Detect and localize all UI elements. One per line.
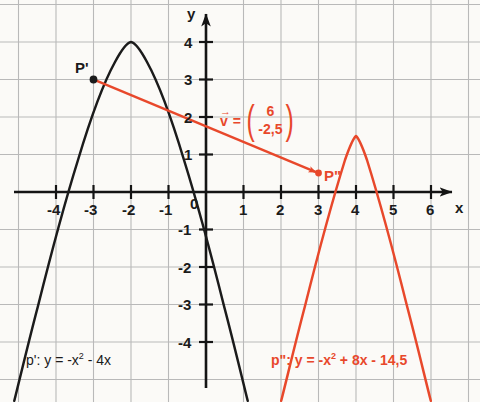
equation-label-p-double-prime: p": y = -x2 + 8x - 14,5: [271, 352, 407, 367]
y-tick-label-4: 4: [184, 35, 192, 50]
y-axis-label: y: [187, 6, 195, 21]
equation-label-p-prime: p': y = -x2 - 4x: [26, 352, 111, 367]
vector-close-paren: ): [286, 105, 294, 136]
x-tick-label-6: 6: [426, 202, 434, 217]
vector-name-wrap: → v: [220, 113, 228, 129]
y-tick-label-1: 1: [184, 147, 192, 162]
point-p-prime-marker: [90, 76, 98, 84]
x-tick-label-3: 3: [314, 202, 322, 217]
x-tick-label-1: 1: [239, 202, 247, 217]
graph-figure: y x 0 -4 -3 -2 -1 1 2 3 4 5 6 4 3 2 1 -1…: [0, 0, 480, 402]
vector-component-x: 6: [266, 103, 274, 121]
y-tick-label--4: -4: [178, 335, 191, 350]
y-tick-label--1: -1: [178, 222, 191, 237]
point-p-double-prime-marker: [315, 170, 322, 177]
vector-component-y: -2,5: [258, 121, 282, 139]
x-tick-label--1: -1: [159, 202, 172, 217]
x-tick-label-5: 5: [389, 202, 397, 217]
vector-annotation: → v = ( 6 -2,5 ): [220, 103, 297, 138]
vector-arrow-accent-icon: →: [220, 106, 231, 117]
x-tick-label-4: 4: [351, 202, 359, 217]
y-tick-label-3: 3: [184, 72, 192, 87]
equation-p-prime-rest: - 4x: [84, 352, 111, 368]
vector-open-paren: (: [247, 105, 255, 136]
x-tick-label--3: -3: [84, 202, 97, 217]
equation-p-double-prime-prefix: p": y = -x: [271, 352, 331, 368]
x-axis-label: x: [455, 200, 463, 215]
equation-p-prime-prefix: p': y = -x: [26, 352, 79, 368]
x-tick-label-2: 2: [276, 202, 284, 217]
y-tick-label--3: -3: [178, 297, 191, 312]
origin-label: 0: [190, 196, 198, 211]
y-tick-label-2: 2: [184, 110, 192, 125]
point-label-p-prime: P': [75, 60, 89, 75]
vector-components: 6 -2,5: [257, 103, 283, 138]
vector-equals-sign: =: [233, 113, 241, 129]
point-label-p-double-prime: P": [324, 168, 341, 183]
equation-p-double-prime-rest: + 8x - 14,5: [336, 352, 407, 368]
x-tick-label--2: -2: [122, 202, 135, 217]
x-tick-label--4: -4: [47, 202, 60, 217]
y-tick-label--2: -2: [178, 260, 191, 275]
